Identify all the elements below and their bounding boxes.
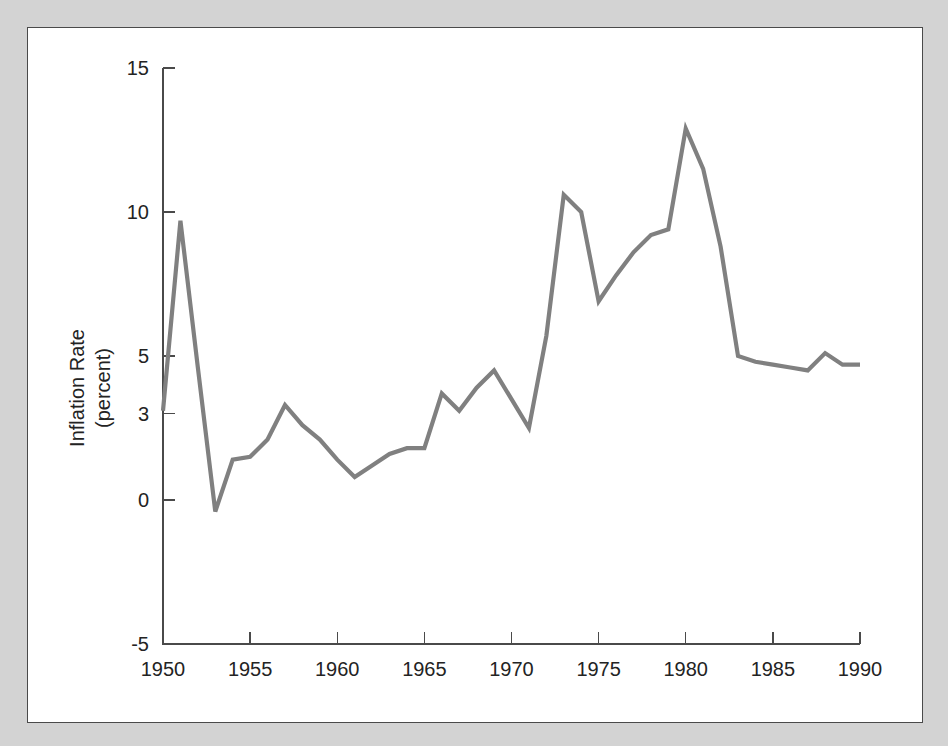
- y-axis-title-line2: (percent): [92, 348, 114, 428]
- data-series-line: [163, 128, 860, 511]
- y-tick-label: 3: [138, 403, 149, 425]
- series-inflation-rate: [163, 128, 860, 511]
- axis-spine: [163, 68, 860, 644]
- y-tick-label: 0: [138, 489, 149, 511]
- axis-lines: [163, 68, 860, 644]
- y-tick-label: -5: [131, 633, 149, 655]
- x-axis: 195019551960196519701975198019851990: [141, 632, 883, 680]
- y-axis-title-line1: Inflation Rate: [66, 329, 88, 447]
- x-tick-label: 1980: [664, 658, 709, 680]
- x-tick-label: 1985: [751, 658, 796, 680]
- x-tick-label: 1990: [838, 658, 883, 680]
- x-tick-label: 1950: [141, 658, 186, 680]
- figure-frame: 1510530-5 195019551960196519701975198019…: [27, 27, 923, 723]
- x-tick-label: 1960: [315, 658, 360, 680]
- chart-plot-area: 1510530-5 195019551960196519701975198019…: [28, 28, 924, 724]
- x-tick-label: 1965: [402, 658, 447, 680]
- x-tick-label: 1970: [489, 658, 534, 680]
- x-tick-label: 1955: [228, 658, 273, 680]
- y-tick-label: 5: [138, 345, 149, 367]
- y-tick-label: 10: [127, 201, 149, 223]
- x-tick-label: 1975: [576, 658, 621, 680]
- y-tick-label: 15: [127, 57, 149, 79]
- y-axis-title: Inflation Rate (percent): [66, 329, 114, 447]
